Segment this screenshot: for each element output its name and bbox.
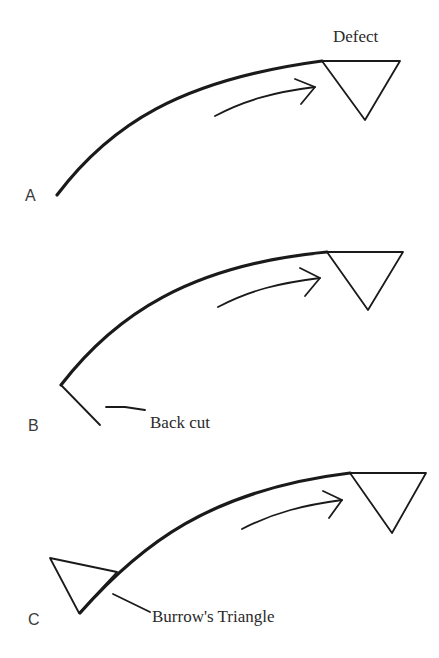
burrows-triangle-label: Burrow's Triangle bbox=[152, 607, 275, 626]
back-cut-line bbox=[61, 385, 100, 425]
leader-line bbox=[106, 407, 145, 410]
rotation-arrow bbox=[242, 500, 342, 529]
flap-arc bbox=[80, 473, 350, 613]
arrow-head-icon bbox=[300, 268, 320, 296]
defect-triangle bbox=[322, 61, 400, 120]
arrow-head-icon bbox=[295, 79, 315, 104]
panel-label-b: B bbox=[28, 417, 39, 434]
leader-line bbox=[113, 594, 150, 612]
panel-b: B Back cut bbox=[28, 252, 403, 434]
rotation-arrow bbox=[218, 278, 320, 307]
back-cut-label: Back cut bbox=[150, 413, 210, 432]
defect-triangle bbox=[327, 252, 403, 310]
flap-diagram: A Defect B Back cut C Burrow's Triangle bbox=[0, 0, 439, 658]
arrow-head-icon bbox=[323, 491, 342, 518]
panel-label-a: A bbox=[25, 187, 36, 204]
defect-triangle bbox=[350, 473, 426, 533]
panel-a: A Defect bbox=[25, 27, 400, 204]
panel-c: C Burrow's Triangle bbox=[28, 473, 426, 628]
flap-arc bbox=[61, 252, 327, 385]
rotation-arrow bbox=[215, 87, 315, 116]
panel-label-c: C bbox=[28, 611, 40, 628]
flap-arc bbox=[57, 61, 322, 195]
defect-label: Defect bbox=[333, 27, 379, 46]
